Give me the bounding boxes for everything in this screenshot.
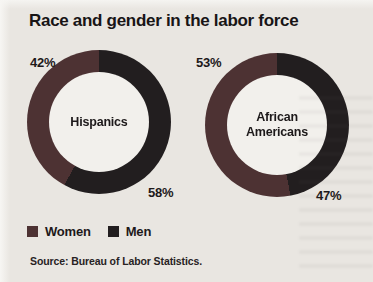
donut-hole-hispanics: Hispanics: [49, 72, 149, 172]
donut-chart-african-americans: African Americans: [205, 53, 349, 197]
chart-panel: Race and gender in the labor force Hispa…: [0, 0, 373, 282]
pct-label-african-americans-men: 47%: [316, 188, 341, 203]
legend-label-men: Men: [126, 224, 151, 239]
legend-item-women: Women: [27, 224, 91, 239]
chart-title: Race and gender in the labor force: [29, 11, 298, 31]
donut-hole-african-americans: African Americans: [227, 75, 327, 175]
pct-label-hispanics-men: 58%: [148, 185, 173, 200]
legend-swatch-women-icon: [27, 226, 38, 237]
source-note: Source: Bureau of Labor Statistics.: [30, 255, 202, 267]
donut-chart-hispanics: Hispanics: [27, 50, 171, 194]
legend-swatch-men-icon: [108, 226, 119, 237]
legend-label-women: Women: [45, 224, 91, 239]
legend-item-men: Men: [108, 224, 151, 239]
pct-label-african-americans-women: 53%: [196, 55, 221, 70]
donut-center-label-hispanics: Hispanics: [70, 115, 127, 130]
legend: Women Men: [27, 224, 151, 239]
donut-center-label-african-americans: African Americans: [246, 110, 308, 140]
pct-label-hispanics-women: 42%: [30, 55, 55, 70]
